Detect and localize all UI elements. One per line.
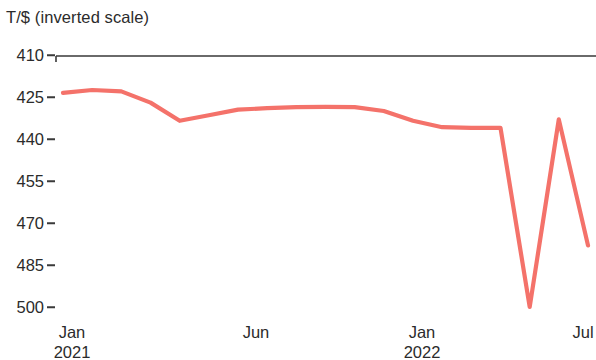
x-tick-month: Jan bbox=[59, 323, 86, 341]
x-tick-year: 2022 bbox=[404, 342, 441, 360]
x-tick-month: Jan bbox=[409, 323, 436, 341]
x-tick-month: Jun bbox=[243, 323, 270, 341]
series-line-t-per-dollar bbox=[63, 90, 588, 307]
x-tick-label-jan-2021: Jan 2021 bbox=[54, 322, 91, 360]
x-tick-year: 2021 bbox=[54, 342, 91, 360]
x-tick-month: Jul bbox=[572, 323, 593, 341]
x-tick-label-jul-2022: Jul bbox=[572, 322, 593, 342]
chart-container: T/$ (inverted scale) 410 425 440 455 470… bbox=[0, 0, 596, 360]
x-tick-label-jun-2021: Jun bbox=[243, 322, 270, 342]
top-axis-line bbox=[56, 56, 596, 62]
x-tick-label-jan-2022: Jan 2022 bbox=[404, 322, 441, 360]
plot-area bbox=[0, 0, 596, 360]
